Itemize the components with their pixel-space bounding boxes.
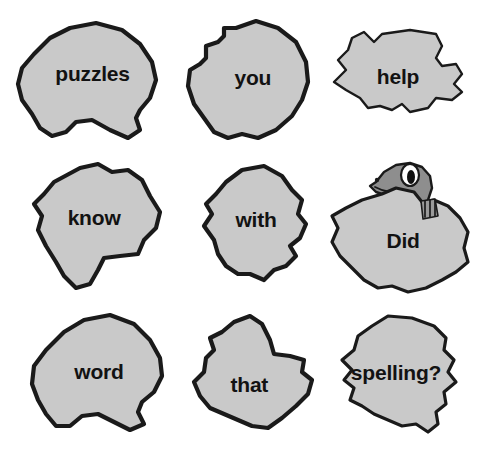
blob-help[interactable]: help bbox=[324, 24, 472, 140]
blob-know-shape bbox=[24, 158, 170, 296]
blob-with-shape bbox=[192, 162, 320, 288]
illustration-canvas: puzzles you help know with bbox=[0, 0, 477, 452]
gecko-claw-icon bbox=[421, 199, 438, 219]
blob-spelling-shape bbox=[320, 308, 472, 442]
blob-that-shape bbox=[184, 310, 326, 440]
blob-spelling[interactable]: spelling? bbox=[320, 308, 472, 442]
blob-know[interactable]: know bbox=[24, 158, 170, 296]
blob-did-with-gecko[interactable]: Did bbox=[322, 146, 477, 298]
blob-that[interactable]: that bbox=[184, 310, 326, 440]
blob-with[interactable]: with bbox=[192, 162, 320, 288]
blob-you[interactable]: you bbox=[180, 16, 320, 148]
blob-you-shape bbox=[180, 16, 320, 148]
blob-puzzles[interactable]: puzzles bbox=[12, 18, 164, 146]
blob-word[interactable]: word bbox=[24, 310, 174, 438]
blob-did-shape bbox=[322, 146, 477, 298]
blob-help-shape bbox=[324, 24, 472, 140]
blob-puzzles-shape bbox=[12, 18, 164, 146]
blob-word-shape bbox=[24, 310, 174, 438]
